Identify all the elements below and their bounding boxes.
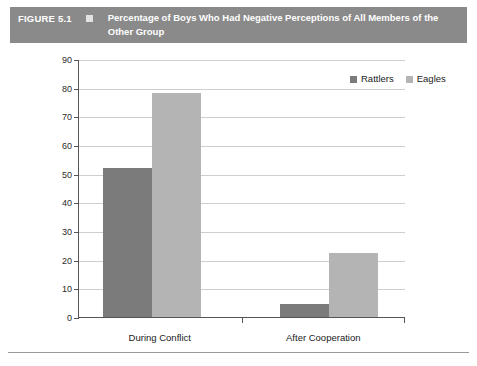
legend-item-eagles: Eagles — [406, 74, 446, 84]
y-axis-tick-mark — [74, 89, 79, 90]
x-axis-label-during-conflict: During Conflict — [129, 332, 191, 343]
legend-item-rattlers: Rattlers — [350, 74, 394, 84]
y-axis-tick-label: 70 — [46, 112, 72, 122]
y-axis-tick-mark — [74, 232, 79, 233]
plot-area: Rattlers Eagles During ConflictAfter Coo… — [78, 60, 405, 318]
figure-title: Percentage of Boys Who Had Negative Perc… — [108, 11, 461, 38]
gridline — [78, 146, 405, 147]
figure-label: FIGURE 5.1 — [18, 11, 72, 25]
y-axis-tick-mark — [74, 203, 79, 204]
figure-banner: FIGURE 5.1 Percentage of Boys Who Had Ne… — [10, 7, 467, 43]
bar-eagles-after-cooperation — [329, 253, 378, 318]
y-axis-tick-label: 40 — [46, 198, 72, 208]
y-axis: 0102030405060708090 — [40, 60, 72, 318]
chart-legend: Rattlers Eagles — [350, 74, 446, 84]
y-axis-tick-label: 20 — [46, 256, 72, 266]
x-axis-label-after-cooperation: After Cooperation — [286, 332, 360, 343]
y-axis-tick-label: 0 — [46, 313, 72, 323]
legend-swatch-eagles-icon — [406, 76, 413, 83]
bar-rattlers-during-conflict — [103, 168, 152, 317]
y-axis-tick-mark — [74, 117, 79, 118]
y-axis-tick-label: 50 — [46, 170, 72, 180]
legend-label-rattlers: Rattlers — [361, 74, 394, 84]
y-axis-tick-label: 10 — [46, 284, 72, 294]
legend-label-eagles: Eagles — [417, 74, 446, 84]
gridline — [78, 89, 405, 90]
y-axis-tick-label: 80 — [46, 84, 72, 94]
y-axis-tick-mark — [74, 175, 79, 176]
bar-eagles-during-conflict — [152, 93, 201, 317]
y-axis-tick-mark — [74, 261, 79, 262]
bar-rattlers-after-cooperation — [280, 304, 329, 317]
x-axis-tick-mark — [404, 318, 405, 323]
y-axis-tick-mark — [74, 318, 79, 319]
y-axis-tick-label: 90 — [46, 55, 72, 65]
gridline — [78, 60, 405, 61]
bottom-divider — [8, 352, 469, 353]
y-axis-tick-label: 60 — [46, 141, 72, 151]
bar-chart: 0102030405060708090 Rattlers Eagles Duri… — [0, 50, 477, 340]
gridline — [78, 117, 405, 118]
x-axis-tick-mark — [242, 318, 243, 323]
y-axis-tick-label: 30 — [46, 227, 72, 237]
square-bullet-icon — [86, 15, 93, 22]
y-axis-tick-mark — [74, 289, 79, 290]
legend-swatch-rattlers-icon — [350, 76, 357, 83]
y-axis-tick-mark — [74, 146, 79, 147]
y-axis-tick-mark — [74, 60, 79, 61]
y-axis-line — [78, 60, 79, 318]
